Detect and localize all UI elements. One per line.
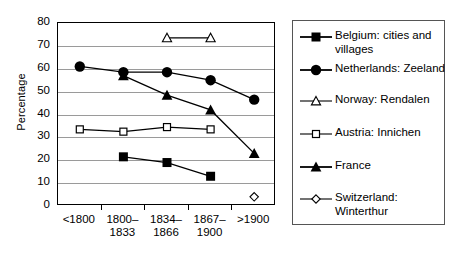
data-point-marker: [206, 172, 215, 181]
legend-marker-open-triangle-icon: [299, 94, 333, 108]
legend-label: Switzerland: Winterthur: [333, 191, 398, 218]
legend-marker-filled-circle-icon: [299, 63, 333, 77]
x-axis-tick-mark: [188, 205, 189, 210]
data-point-marker: [120, 128, 127, 135]
legend-label: Netherlands: Zeeland: [333, 62, 445, 76]
data-point-marker: [162, 67, 172, 77]
data-point-marker: [162, 90, 173, 100]
series-line: [123, 76, 254, 154]
y-tick-label: 70: [26, 39, 50, 50]
legend-item: Belgium: cities and villages: [299, 29, 445, 56]
y-tick-label: 80: [26, 16, 50, 27]
x-axis-tick-mark: [231, 205, 232, 210]
legend-marker-filled-square-icon: [299, 30, 333, 44]
data-point-marker: [164, 124, 171, 131]
legend-marker-open-diamond-icon: [299, 192, 333, 206]
y-tick-label: 40: [26, 108, 50, 119]
legend-label: Belgium: cities and villages: [333, 29, 432, 56]
legend-item: Norway: Rendalen: [299, 93, 445, 107]
x-tick-label: >1900: [225, 213, 281, 226]
legend-label: Austria: Innichen: [333, 126, 421, 140]
y-tick-label: 30: [26, 130, 50, 141]
data-point-marker: [163, 158, 172, 167]
y-tick-label: 20: [26, 153, 50, 164]
data-point-marker: [311, 65, 321, 75]
y-axis-title: Percentage: [15, 37, 27, 167]
y-tick-label: 50: [26, 85, 50, 96]
legend: Belgium: cities and villagesNetherlands:…: [292, 20, 445, 225]
legend-item: Austria: Innichen: [299, 126, 445, 140]
x-axis-tick-mark: [144, 205, 145, 210]
legend-label: Norway: Rendalen: [333, 93, 430, 107]
data-point-marker: [312, 195, 320, 203]
data-point-marker: [249, 94, 259, 104]
legend-item: France: [299, 159, 445, 173]
data-series: [162, 33, 215, 42]
legend-item: Switzerland: Winterthur: [299, 191, 445, 218]
y-tick-label: 10: [26, 176, 50, 187]
data-point-marker: [75, 61, 85, 71]
x-axis-tick-mark: [101, 205, 102, 210]
data-series: [118, 70, 260, 158]
data-point-marker: [312, 33, 321, 42]
chart-figure: Percentage 80706050403020100 <18001800– …: [0, 0, 451, 260]
data-series: [76, 124, 214, 136]
data-point-marker: [313, 131, 320, 138]
data-series: [119, 152, 215, 180]
data-point-marker: [205, 75, 215, 85]
data-point-marker: [205, 105, 216, 115]
plot-area: [57, 22, 275, 205]
data-point-marker: [250, 193, 258, 201]
data-point-marker: [119, 152, 128, 161]
series-line: [80, 127, 211, 132]
data-series: [250, 193, 258, 201]
series-layer: [58, 23, 276, 206]
legend-marker-filled-triangle-icon: [299, 160, 333, 174]
data-point-marker: [76, 126, 83, 133]
legend-item: Netherlands: Zeeland: [299, 62, 445, 76]
legend-marker-open-square-icon: [299, 127, 333, 141]
legend-label: France: [333, 159, 371, 173]
y-tick-label: 0: [26, 199, 50, 210]
data-point-marker: [207, 126, 214, 133]
y-tick-label: 60: [26, 62, 50, 73]
